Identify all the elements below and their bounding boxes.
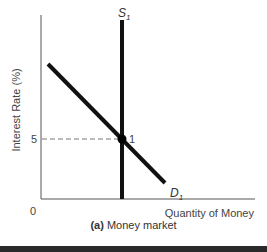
x-axis-label: Quantity of Money xyxy=(165,207,255,219)
bottom-divider xyxy=(0,246,267,252)
demand-curve-d1 xyxy=(48,64,165,183)
money-market-chart: S1 D1 1 5 0 Quantity of Money Interest R… xyxy=(0,0,267,252)
s1-label: S1 xyxy=(118,6,130,22)
equilibrium-point xyxy=(118,135,127,144)
equilibrium-label: 1 xyxy=(129,133,135,145)
origin-label: 0 xyxy=(30,205,36,217)
y-tick-5: 5 xyxy=(31,133,37,145)
y-axis-label: Interest Rate (%) xyxy=(10,68,22,151)
d1-label: D1 xyxy=(170,186,183,202)
chart-caption: (a) Money market xyxy=(0,219,267,231)
caption-text: Money market xyxy=(104,219,177,231)
caption-prefix: (a) xyxy=(90,219,103,231)
